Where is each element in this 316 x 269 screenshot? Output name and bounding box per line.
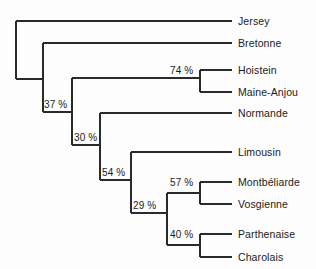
tip-label-hoistein: Hoistein [238,64,277,76]
support-label-57: 57 % [170,177,193,188]
tip-label-parthenaise: Parthenaise [238,228,295,240]
support-label-54: 54 % [102,167,125,178]
support-label-40: 40 % [170,229,193,240]
tip-label-charolais: Charolais [238,251,283,263]
tip-label-limousin: Limousin [238,146,281,158]
tip-label-maine-anjou: Maine-Anjou [238,86,298,98]
support-label-29: 29 % [133,200,156,211]
support-label-37: 37 % [44,99,67,110]
support-label-30: 30 % [74,132,97,143]
tip-label-jersey: Jersey [238,15,270,27]
tip-label-bretonne: Bretonne [238,37,281,49]
tip-label-montbeliarde: Montbéliarde [238,176,300,188]
tip-label-vosgienne: Vosgienne [238,198,288,210]
dendrogram-figure: Jersey Bretonne Hoistein Maine-Anjou Nor… [0,0,316,269]
tip-label-normande: Normande [238,107,288,119]
support-label-74: 74 % [170,65,193,76]
